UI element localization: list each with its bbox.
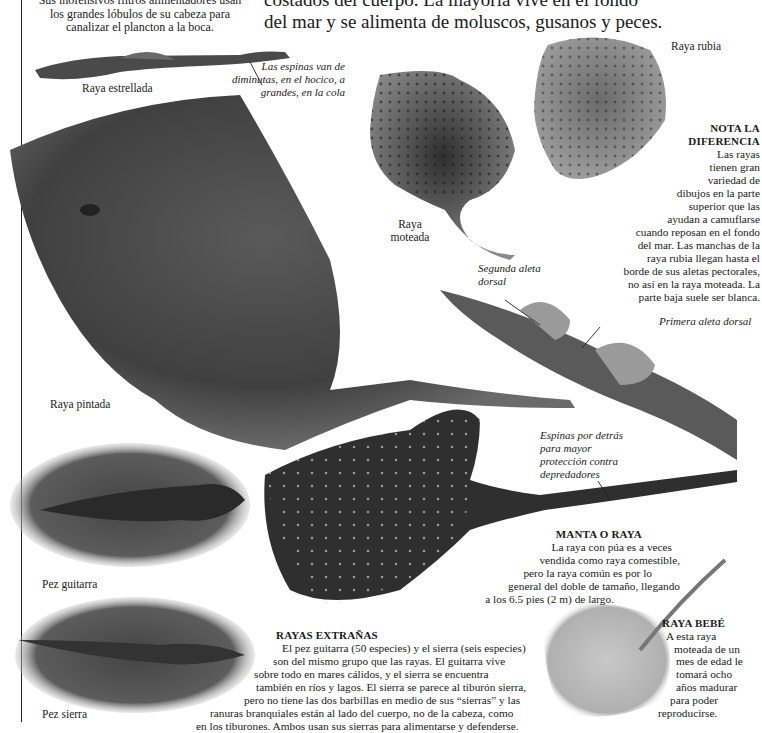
- sidebar-title: MANTA O RAYA: [480, 528, 680, 541]
- text-line: Espinas por detrás: [540, 429, 623, 442]
- text-line: La raya con púa es a veces: [480, 541, 680, 554]
- text-line: tienen gran: [560, 161, 760, 174]
- sidebar-title: NOTA LA: [560, 122, 760, 135]
- text-line: sobre todo en mares cálidos, y el sierra…: [196, 668, 566, 681]
- text-line: mes de edad le: [662, 655, 762, 668]
- annotation-primera-aleta: Primera aleta dorsal: [659, 315, 751, 328]
- text-line: Raya: [385, 218, 435, 231]
- sidebar-rayas-extranas: RAYAS EXTRAÑAS El pez guitarra (50 espec…: [196, 629, 566, 733]
- text-line: moteada de un: [662, 643, 762, 656]
- text-line: para mayor: [540, 442, 623, 455]
- sidebar-manta-raya: MANTA O RAYA La raya con púa es a veces …: [480, 528, 680, 606]
- annotation-espinas-cola: Las espinas van de diminutas, en el hoci…: [200, 60, 345, 99]
- sidebar-raya-bebe: RAYA BEBÉ A esta raya moteada de un mes …: [662, 617, 762, 719]
- text-line: parte baja suele ser blanca.: [560, 291, 760, 304]
- text-line: pero la raya común es por lo: [480, 567, 680, 580]
- text-line: Las espinas van de: [200, 60, 345, 73]
- text-line: cuando reposan en el fondo: [560, 226, 760, 239]
- text-line: ayudan a camuflarse: [560, 213, 760, 226]
- text-line: no así en la raya moteada. La: [560, 278, 760, 291]
- text-line: vendida como raya comestible,: [480, 554, 680, 567]
- text-line: reproducirse.: [658, 707, 762, 720]
- caption-raya-pintada: Raya pintada: [50, 398, 110, 411]
- text-line: El pez guitarra (50 especies) y el sierr…: [196, 642, 566, 655]
- text-line: dibujos en la parte: [560, 187, 760, 200]
- text-line: raya rubia llegan hasta el: [560, 252, 760, 265]
- text-line: dorsal: [478, 275, 541, 288]
- sidebar-nota-diferencia: NOTA LA DIFERENCIA Las rayas tienen gran…: [560, 122, 760, 304]
- text-line: ranuras branquiales están al lado del cu…: [196, 707, 566, 720]
- text-line: Las rayas: [560, 148, 760, 161]
- text-line: protección contra: [540, 455, 623, 468]
- caption-raya-rubia: Raya rubia: [671, 40, 721, 53]
- text-line: en los tiburones. Ambos usan sus sierras…: [196, 720, 566, 733]
- text-line: variedad de: [560, 174, 760, 187]
- sidebar-title: RAYA BEBÉ: [662, 617, 762, 630]
- text-line: también en ríos y lagos. El sierra se pa…: [196, 681, 566, 694]
- text-line: tomará ocho: [662, 668, 762, 681]
- pez-guitarra-image: [10, 443, 250, 567]
- leader-line: [582, 327, 600, 348]
- text-line: a los 6.5 pies (2 m) de largo.: [480, 593, 680, 606]
- text-line: pero no tiene las dos barbillas en medio…: [196, 694, 566, 707]
- text-line: A esta raya: [662, 630, 762, 643]
- caption-raya-moteada: Raya moteada: [385, 218, 435, 244]
- text-line: Segunda aleta: [478, 262, 541, 275]
- caption-pez-guitarra: Pez guitarra: [42, 578, 97, 591]
- text-line: años madurar: [662, 681, 762, 694]
- text-line: son del mismo grupo que las rayas. El gu…: [196, 655, 566, 668]
- text-line: grandes, en la cola: [200, 86, 345, 99]
- text-line: depredadores: [540, 468, 623, 481]
- annotation-segunda-aleta: Segunda aleta dorsal: [478, 262, 541, 288]
- text-line: general del doble de tamaño, llegando: [480, 580, 680, 593]
- sidebar-title: RAYAS EXTRAÑAS: [196, 629, 566, 642]
- text-line: moteada: [385, 231, 435, 244]
- text-line: borde de sus aletas pectorales,: [560, 265, 760, 278]
- caption-pez-sierra: Pez sierra: [42, 708, 87, 721]
- text-line: superior que las: [560, 200, 760, 213]
- caption-raya-estrellada: Raya estrellada: [82, 82, 153, 95]
- text-line: del mar. Las manchas de la: [560, 239, 760, 252]
- text-line: diminutas, en el hocico, a: [200, 73, 345, 86]
- annotation-espinas-detras: Espinas por detrás para mayor protección…: [540, 429, 623, 481]
- sidebar-title: DIFERENCIA: [560, 135, 760, 148]
- text-line: para poder: [662, 694, 762, 707]
